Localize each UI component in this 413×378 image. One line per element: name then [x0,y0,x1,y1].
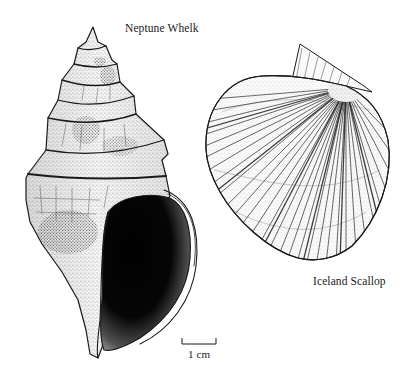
shell-illustration [0,0,413,378]
scallop-radial-ribs [200,70,400,270]
neptune-whelk-label: Neptune Whelk [125,22,199,34]
iceland-scallop-label: Iceland Scallop [313,275,386,287]
scale-bar-label: 1 cm [188,348,210,360]
iceland-scallop-drawing [200,44,400,270]
scale-bar [182,338,216,344]
neptune-whelk-drawing [26,27,197,358]
